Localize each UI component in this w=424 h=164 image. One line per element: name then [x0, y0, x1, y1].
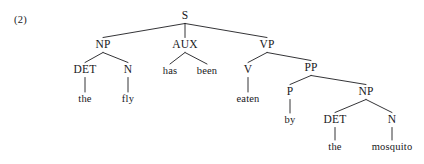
tree-terminal-been: been: [197, 66, 218, 77]
tree-terminal-the2: the: [328, 142, 341, 153]
syntax-tree-figure: (2) SNPAUXVPDETNhasbeenVPPtheflyeatenPNP…: [0, 0, 424, 164]
tree-node-pp: PP: [304, 62, 317, 74]
tree-edge-s-to-vp: [185, 24, 267, 38]
tree-terminal-the1: the: [78, 94, 91, 105]
tree-node-det1: DET: [74, 64, 97, 76]
tree-edge-vp-to-pp: [267, 53, 311, 61]
tree-edge-aux-to-has: [170, 53, 185, 65]
tree-edge-pp-to-np2: [311, 76, 366, 85]
tree-node-aux: AUX: [172, 39, 198, 51]
tree-edge-s-to-np1: [103, 24, 185, 38]
tree-edge-np2-to-det2: [335, 100, 366, 113]
tree-node-v: V: [244, 64, 253, 76]
tree-edges-layer: [0, 0, 424, 164]
tree-edge-np1-to-det1: [85, 53, 103, 63]
tree-edge-pp-to-p: [290, 76, 311, 85]
tree-edge-aux-to-been: [185, 53, 207, 65]
tree-node-n1: N: [124, 64, 133, 76]
tree-node-np2: NP: [358, 86, 373, 98]
tree-node-n2: N: [388, 114, 397, 126]
tree-edge-vp-to-v: [248, 53, 267, 63]
tree-terminal-has: has: [163, 66, 178, 77]
tree-terminal-fly: fly: [122, 94, 134, 105]
tree-node-vp: VP: [259, 39, 274, 51]
tree-node-s: S: [182, 10, 189, 22]
tree-terminal-eaten: eaten: [236, 94, 259, 105]
tree-node-np1: NP: [95, 39, 110, 51]
tree-node-p: P: [287, 86, 294, 98]
tree-edge-np2-to-n2: [366, 100, 392, 113]
tree-node-det2: DET: [324, 114, 347, 126]
tree-terminal-mosquito: mosquito: [372, 142, 413, 153]
tree-edge-np1-to-n1: [103, 53, 128, 63]
tree-terminal-by: by: [285, 115, 296, 126]
